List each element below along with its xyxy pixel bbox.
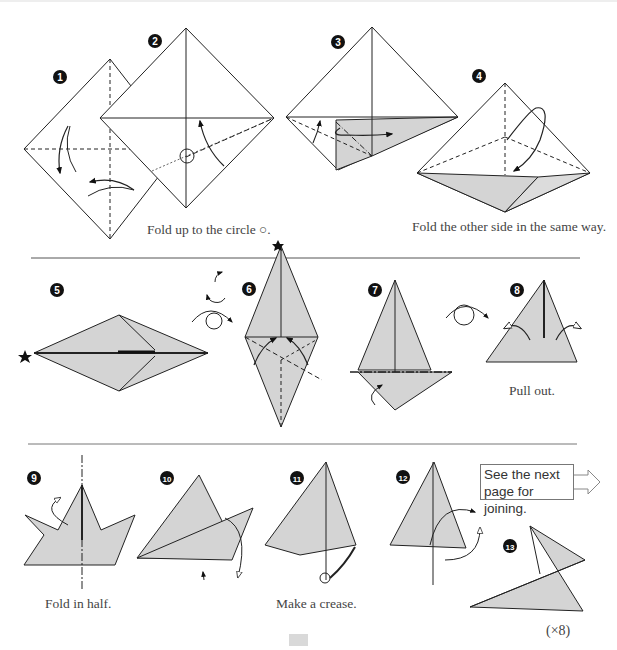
caption-step-9: Fold in half. xyxy=(45,596,111,612)
step-10-figure xyxy=(137,475,253,580)
svg-text:8: 8 xyxy=(514,285,520,296)
step-9-figure xyxy=(24,455,135,590)
next-page-note: See the next page for joining. xyxy=(480,464,574,500)
step-badge-9: 9 xyxy=(27,471,41,485)
svg-text:12: 12 xyxy=(399,474,408,483)
step-badge-3: 3 xyxy=(331,35,345,49)
caption-step-11: Make a crease. xyxy=(276,596,357,612)
svg-text:5: 5 xyxy=(54,285,60,296)
step-badge-8: 8 xyxy=(510,283,524,297)
page-tab-marker xyxy=(289,634,308,646)
step-8-figure xyxy=(486,280,580,362)
step-13-figure xyxy=(470,526,585,611)
caption-step-2: Fold up to the circle ○. xyxy=(147,222,271,238)
svg-text:1: 1 xyxy=(57,72,63,83)
note-line-1: See the next xyxy=(484,466,570,483)
svg-text:4: 4 xyxy=(476,71,482,82)
step-11-figure xyxy=(265,462,356,583)
turn-over-symbol-1 xyxy=(192,311,232,329)
turn-over-symbol-2 xyxy=(446,305,488,325)
svg-text:3: 3 xyxy=(335,37,341,48)
svg-text:6: 6 xyxy=(246,284,252,295)
step-badge-7: 7 xyxy=(368,283,382,297)
svg-text:7: 7 xyxy=(372,285,378,296)
step-badge-4: 4 xyxy=(472,69,486,83)
svg-text:9: 9 xyxy=(31,473,37,484)
step-badge-13: 13 xyxy=(503,539,517,553)
step-badge-11: 11 xyxy=(290,471,304,485)
svg-text:11: 11 xyxy=(293,475,302,484)
next-page-arrow xyxy=(572,470,600,494)
multiplier-label: (×8) xyxy=(546,623,570,639)
step-3-figure xyxy=(286,27,458,170)
step-badge-12: 12 xyxy=(396,470,410,484)
step-badge-10: 10 xyxy=(160,471,174,485)
step-5-figure xyxy=(18,315,208,391)
note-line-2: page for joining. xyxy=(484,483,570,517)
origami-diagram: 1 2 3 4 5 6 7 8 9 10 11 12 13 xyxy=(0,0,617,650)
step-badge-2: 2 xyxy=(148,34,162,48)
step-badge-6: 6 xyxy=(242,282,256,296)
svg-text:2: 2 xyxy=(152,36,158,47)
rotate-symbol xyxy=(207,272,225,302)
step-badge-5: 5 xyxy=(50,283,64,297)
svg-text:13: 13 xyxy=(506,543,515,552)
step-7-figure xyxy=(350,280,452,410)
step-badge-1: 1 xyxy=(53,70,67,84)
caption-step-4: Fold the other side in the same way. xyxy=(412,219,606,235)
caption-step-8: Pull out. xyxy=(509,383,555,399)
step-6-figure xyxy=(245,240,322,427)
svg-text:10: 10 xyxy=(163,475,172,484)
